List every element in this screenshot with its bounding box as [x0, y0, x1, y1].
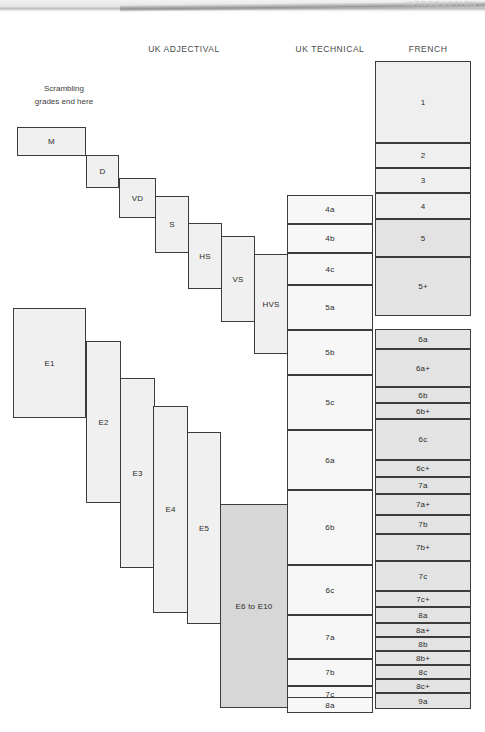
grade-box-9a: 9a — [375, 693, 471, 709]
grade-box-hs: HS — [188, 223, 222, 289]
grade-box-4: 4 — [375, 193, 471, 219]
column-header-uk-adjectival: UK ADJECTIVAL — [104, 44, 264, 54]
grade-box-6b: 6b+ — [375, 403, 471, 419]
grade-box-e4: E4 — [153, 406, 188, 613]
grade-box-3: 3 — [375, 168, 471, 193]
grade-comparison-chart: INTRODUCTION UK ADJECTIVALUK TECHNICALFR… — [0, 0, 485, 732]
grade-box-7a: 7a+ — [375, 494, 471, 515]
grade-box-6a: 6a — [287, 430, 373, 490]
grade-box-vs: VS — [221, 236, 255, 322]
grade-box-d: D — [86, 155, 119, 188]
grade-box-4a: 4a — [287, 195, 373, 224]
grade-box-7b: 7b — [375, 515, 471, 534]
scrambling-note-line1: Scrambling — [14, 82, 114, 95]
grade-box-7a: 7a — [375, 477, 471, 494]
grade-box-hvs: HVS — [254, 254, 288, 354]
grade-box-6a: 6a — [375, 329, 471, 349]
grade-box-m: M — [17, 127, 86, 156]
grade-box-5a: 5a — [287, 285, 373, 330]
grade-box-5b: 5b — [287, 330, 373, 375]
grade-box-8c: 8c — [375, 665, 471, 679]
grade-box-e5: E5 — [187, 432, 221, 624]
column-header-uk-technical: UK TECHNICAL — [287, 44, 373, 54]
grade-box-6a: 6a+ — [375, 349, 471, 387]
grade-box-8a: 8a — [287, 697, 373, 713]
grade-box-6c: 6c — [375, 419, 471, 460]
grade-box-2: 2 — [375, 143, 471, 168]
grade-box-7c: 7c — [375, 561, 471, 591]
grade-box-1: 1 — [375, 61, 471, 143]
grade-box-8b: 8b+ — [375, 651, 471, 665]
grade-box-6b: 6b — [375, 387, 471, 403]
grade-box-6b: 6b — [287, 490, 373, 565]
grade-box-7b: 7b+ — [375, 534, 471, 561]
scrambling-note: Scrambling grades end here — [14, 82, 114, 108]
grade-box-7b: 7b — [287, 659, 373, 686]
grade-box-7a: 7a — [287, 615, 373, 659]
grade-box-6c: 6c — [287, 565, 373, 615]
grade-box-e1: E1 — [13, 308, 86, 418]
running-head: INTRODUCTION — [405, 0, 477, 8]
grade-box-e6-to-e10: E6 to E10 — [220, 504, 288, 708]
grade-box-e3: E3 — [120, 378, 155, 568]
column-header-french: FRENCH — [375, 44, 481, 54]
grade-box-vd: VD — [119, 178, 156, 218]
grade-box-7c: 7c+ — [375, 591, 471, 607]
grade-box-5c: 5c — [287, 375, 373, 430]
scrambling-note-line2: grades end here — [14, 95, 114, 108]
grade-box-4c: 4c — [287, 253, 373, 285]
grade-box-8a: 8a+ — [375, 623, 471, 637]
grade-box-8c: 8c+ — [375, 679, 471, 693]
grade-box-5: 5 — [375, 219, 471, 257]
grade-box-4b: 4b — [287, 224, 373, 253]
grade-box-8a: 8a — [375, 607, 471, 623]
grade-box-e2: E2 — [86, 341, 121, 503]
grade-box-s: S — [155, 196, 189, 253]
grade-box-8b: 8b — [375, 637, 471, 651]
grade-box-5: 5+ — [375, 257, 471, 316]
grade-box-6c: 6c+ — [375, 460, 471, 477]
